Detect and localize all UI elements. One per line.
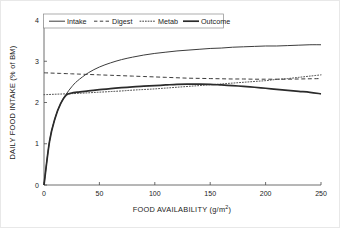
y-tick-label-3: 3 (35, 58, 39, 65)
y-tick-label-1: 1 (35, 140, 39, 147)
legend: Intake Digest Metab Outcome (44, 14, 231, 28)
x-axis: 0 50 100 150 200 250 FOOD AVAILABILITY (… (42, 182, 327, 214)
series-group (44, 45, 321, 185)
y-tick-label-0: 0 (35, 182, 39, 189)
x-tick-label-250: 250 (315, 190, 327, 197)
legend-label-metab: Metab (158, 17, 178, 26)
y-tick-label-2: 2 (35, 99, 39, 106)
x-tick-label-0: 0 (42, 190, 46, 197)
x-tick-label-150: 150 (204, 190, 216, 197)
chart-figure: 0 1 2 3 4 DAILY FOOD INTAKE (% of BM) 0 … (0, 0, 340, 228)
x-axis-title-main: FOOD AVAILABILITY (g/m (133, 205, 226, 214)
x-axis-title: FOOD AVAILABILITY (g/m2) (133, 204, 232, 214)
x-tick-label-200: 200 (260, 190, 272, 197)
line-chart: 0 1 2 3 4 DAILY FOOD INTAKE (% of BM) 0 … (1, 1, 340, 228)
y-axis-title: DAILY FOOD INTAKE (% of BM) (8, 46, 17, 160)
x-tick-label-50: 50 (96, 190, 104, 197)
x-tick-label-100: 100 (149, 190, 161, 197)
x-axis-title-tail: ) (229, 205, 232, 214)
legend-label-digest: Digest (112, 17, 132, 26)
y-axis: 0 1 2 3 4 DAILY FOOD INTAKE (% of BM) (8, 17, 47, 189)
series-line-digest (44, 73, 321, 79)
legend-label-intake: Intake (67, 17, 87, 26)
y-tick-label-4: 4 (35, 17, 39, 24)
legend-label-outcome: Outcome (201, 17, 230, 26)
series-line-intake (44, 45, 321, 185)
series-line-outcome (44, 84, 321, 185)
